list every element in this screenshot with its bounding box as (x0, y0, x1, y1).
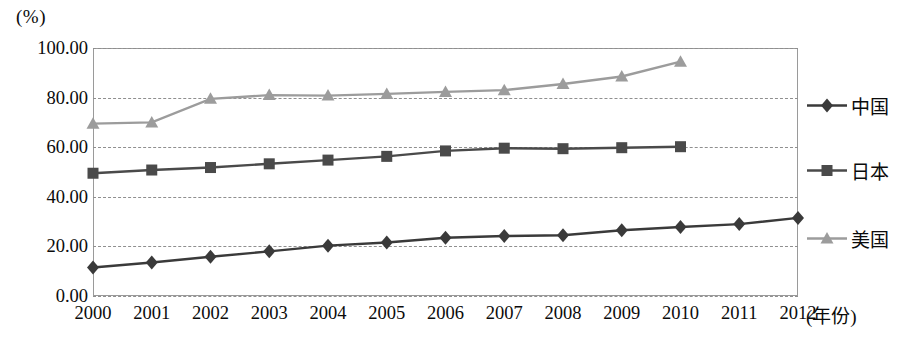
x-axis-tick-labels: 2000200120022003200420052006200720082009… (0, 0, 906, 352)
x-axis-tick-label: 2011 (721, 303, 757, 324)
x-axis-tick-label: 2001 (133, 303, 170, 324)
legend-label: 美国 (851, 225, 889, 252)
data-point-marker (822, 165, 833, 176)
x-axis-tick-label: 2008 (545, 303, 582, 324)
legend-label: 中国 (851, 92, 889, 119)
legend-label: 日本 (851, 157, 889, 184)
x-axis-tick-label: 2002 (192, 303, 229, 324)
x-axis-tick-label: 2000 (75, 303, 112, 324)
legend-square-icon (806, 162, 848, 178)
x-axis-tick-label: 2004 (310, 303, 347, 324)
legend-item[interactable]: 日本 (806, 157, 889, 184)
x-axis-tick-label: 2005 (368, 303, 405, 324)
legend-item[interactable]: 中国 (806, 92, 889, 119)
line-chart: (%) 100.0080.0060.0040.0020.000.00 20002… (0, 0, 906, 352)
x-axis-tick-label: 2006 (427, 303, 464, 324)
x-axis-tick-label: 2003 (251, 303, 288, 324)
x-axis-tick-label: 2007 (486, 303, 523, 324)
legend-item[interactable]: 美国 (806, 225, 889, 252)
x-axis-tick-label: 2010 (662, 303, 699, 324)
legend-triangle-icon (806, 230, 848, 246)
data-point-marker (821, 98, 833, 112)
chart-legend: 中国日本美国 (806, 0, 906, 352)
x-axis-tick-label: 2009 (603, 303, 640, 324)
legend-diamond-icon (806, 97, 848, 113)
